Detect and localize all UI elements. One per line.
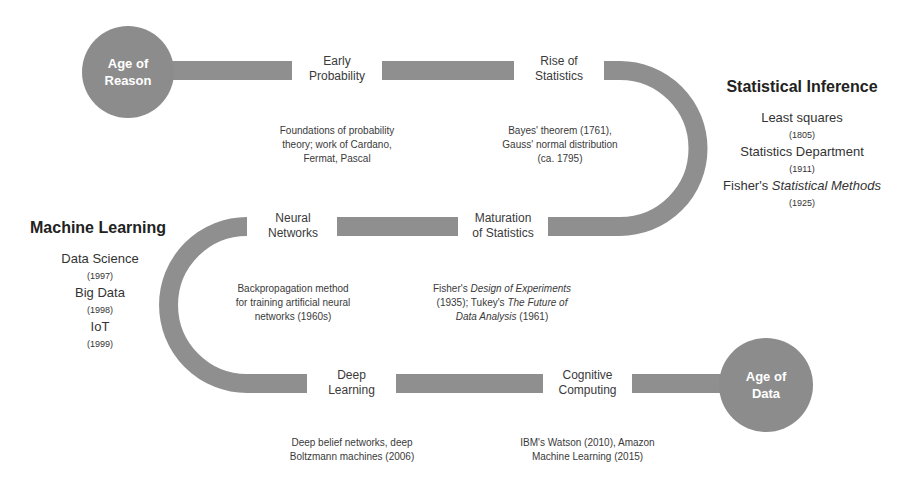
era-year: (1805) bbox=[789, 130, 815, 140]
desc-rise-of-statistics: Bayes' theorem (1761), Gauss' normal dis… bbox=[482, 124, 638, 166]
track-segment bbox=[604, 61, 621, 80]
end-label: Age of Data bbox=[726, 368, 806, 402]
era-item: Statistics Department bbox=[740, 144, 864, 159]
era-machine-learning: Machine Learning Data Science (1997) Big… bbox=[30, 219, 180, 349]
era-item: Least squares bbox=[761, 110, 843, 125]
era-item: IoT bbox=[91, 319, 110, 334]
node-maturation-of-statistics: Maturation of Statistics bbox=[458, 211, 548, 241]
era-year: (1911) bbox=[789, 164, 814, 174]
node-early-probability: Early Probability bbox=[292, 54, 382, 84]
era-title: Statistical Inference bbox=[702, 78, 902, 96]
track-segment bbox=[396, 374, 543, 393]
desc-deep-learning: Deep belief networks, deep Boltzmann mac… bbox=[272, 436, 432, 464]
era-item: Fisher's Statistical Methods bbox=[723, 178, 881, 193]
era-year: (1999) bbox=[87, 339, 113, 349]
era-year: (1925) bbox=[789, 198, 815, 208]
node-deep-learning: Deep Learning bbox=[307, 368, 396, 398]
era-item: Big Data bbox=[75, 285, 125, 300]
era-title: Machine Learning bbox=[30, 219, 180, 237]
track-segment bbox=[246, 374, 307, 393]
node-rise-of-statistics: Rise of Statistics bbox=[514, 54, 604, 84]
era-item: Data Science bbox=[61, 251, 138, 266]
desc-early-probability: Foundations of probability theory; work … bbox=[262, 124, 412, 166]
node-neural-networks: Neural Networks bbox=[250, 211, 336, 241]
start-label: Age of Reason bbox=[88, 55, 168, 89]
desc-maturation-of-statistics: Fisher's Design of Experiments (1935); T… bbox=[417, 282, 587, 324]
node-cognitive-computing: Cognitive Computing bbox=[543, 368, 632, 398]
track-segment bbox=[382, 61, 514, 80]
track-segment bbox=[337, 217, 458, 236]
track-segment bbox=[632, 374, 732, 393]
track-segment bbox=[165, 61, 292, 80]
era-statistical-inference: Statistical Inference Least squares (180… bbox=[702, 78, 902, 208]
desc-cognitive-computing: IBM's Watson (2010), Amazon Machine Lear… bbox=[500, 436, 675, 464]
era-year: (1998) bbox=[87, 305, 113, 315]
track-segment bbox=[548, 217, 621, 236]
desc-neural-networks: Backpropagation method for training arti… bbox=[218, 282, 368, 324]
era-year: (1997) bbox=[87, 271, 113, 281]
